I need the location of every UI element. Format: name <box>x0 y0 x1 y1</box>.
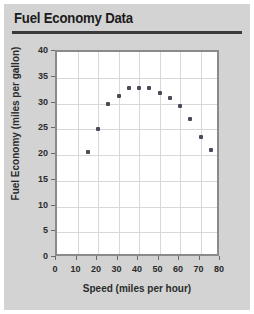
data-point <box>96 127 100 131</box>
y-axis-tick-label: 10 <box>38 200 48 210</box>
data-point <box>106 102 110 106</box>
x-axis-tick-mark <box>76 256 77 260</box>
x-axis-tick-mark <box>199 256 200 260</box>
data-point <box>127 86 131 90</box>
y-axis-label: Fuel Economy (miles per gallon) <box>10 21 21 227</box>
y-axis-tick-label: 35 <box>38 71 48 81</box>
y-axis-tick-mark <box>51 179 55 180</box>
gridline-vertical <box>78 52 79 254</box>
gridline-horizontal <box>57 207 217 208</box>
x-axis-tick-label: 20 <box>91 264 101 274</box>
gridline-horizontal <box>57 78 217 79</box>
y-axis-tick-label: 0 <box>43 251 48 261</box>
x-axis-tick-label: 0 <box>52 264 57 274</box>
x-axis-tick-mark <box>158 256 159 260</box>
x-axis-tick-label: 60 <box>173 264 183 274</box>
gridline-vertical <box>98 52 99 254</box>
gridline-horizontal <box>57 232 217 233</box>
y-axis-tick-mark <box>51 205 55 206</box>
y-axis-tick-mark <box>51 50 55 51</box>
x-axis-tick-mark <box>219 256 220 260</box>
data-point <box>137 86 141 90</box>
x-axis-tick-label: 30 <box>111 264 121 274</box>
y-axis-tick-label: 40 <box>38 45 48 55</box>
x-axis-tick-label: 50 <box>152 264 162 274</box>
gridline-horizontal <box>57 181 217 182</box>
gridline-vertical <box>201 52 202 254</box>
y-axis-tick-label: 15 <box>38 174 48 184</box>
gridline-vertical <box>119 52 120 254</box>
data-point <box>209 148 213 152</box>
plot-area <box>55 50 219 256</box>
x-axis-tick-label: 70 <box>193 264 203 274</box>
data-point <box>86 150 90 154</box>
fuel-economy-scatter-chart: Fuel Economy (miles per gallon) Speed (m… <box>0 0 254 314</box>
data-point <box>147 86 151 90</box>
x-axis-tick-mark <box>55 256 56 260</box>
data-point <box>117 94 121 98</box>
y-axis-tick-label: 30 <box>38 97 48 107</box>
x-axis-tick-mark <box>178 256 179 260</box>
x-axis-label: Speed (miles per hour) <box>55 283 219 294</box>
gridline-vertical <box>139 52 140 254</box>
gridline-vertical <box>180 52 181 254</box>
x-axis-tick-label: 40 <box>132 264 142 274</box>
y-axis-tick-mark <box>51 76 55 77</box>
y-axis-tick-mark <box>51 153 55 154</box>
data-point <box>188 117 192 121</box>
data-point <box>168 96 172 100</box>
data-point <box>199 135 203 139</box>
y-axis-tick-mark <box>51 230 55 231</box>
y-axis-tick-mark <box>51 102 55 103</box>
x-axis-tick-mark <box>137 256 138 260</box>
gridline-horizontal <box>57 155 217 156</box>
x-axis-tick-mark <box>96 256 97 260</box>
x-axis-tick-mark <box>117 256 118 260</box>
data-point <box>178 104 182 108</box>
gridline-horizontal <box>57 129 217 130</box>
gridline-vertical <box>160 52 161 254</box>
y-axis-tick-label: 20 <box>38 148 48 158</box>
y-axis-tick-label: 5 <box>43 225 48 235</box>
y-axis-tick-mark <box>51 127 55 128</box>
x-axis-tick-label: 80 <box>214 264 224 274</box>
gridline-horizontal <box>57 104 217 105</box>
y-axis-tick-label: 25 <box>38 122 48 132</box>
x-axis-tick-label: 10 <box>70 264 80 274</box>
data-point <box>158 91 162 95</box>
